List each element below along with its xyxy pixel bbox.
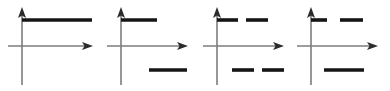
- figure-container: [0, 0, 390, 91]
- panel-4: [297, 7, 378, 85]
- panel-1: [8, 7, 93, 85]
- panel-3: [203, 7, 284, 85]
- four-panel-axis-figure: [0, 0, 390, 91]
- panel-2: [107, 7, 188, 85]
